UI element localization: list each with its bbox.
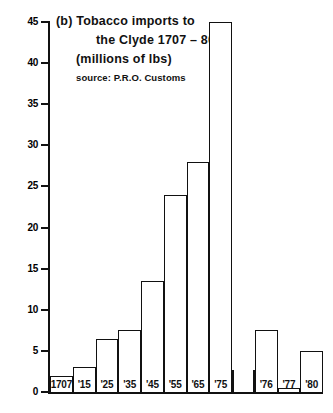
x-axis-line: [48, 392, 323, 394]
y-tick-mark: [41, 227, 50, 229]
y-tick-label: 20: [27, 223, 38, 233]
y-tick-label: 15: [27, 264, 38, 274]
y-tick-label: 40: [27, 58, 38, 68]
x-tick-label: 1707: [50, 379, 73, 390]
y-tick-mark: [41, 309, 50, 311]
y-tick-label: 25: [27, 181, 38, 191]
y-tick-mark: [41, 62, 50, 64]
y-tick-mark: [41, 185, 50, 187]
x-tick-label: '77: [278, 379, 301, 390]
x-tick-label: '55: [164, 379, 187, 390]
y-tick-mark: [41, 391, 50, 393]
y-tick-mark: [41, 144, 50, 146]
chart-figure: (b) Tobacco imports to the Clyde 1707 – …: [0, 0, 333, 413]
y-tick-label: 45: [27, 17, 38, 27]
plot-area: 1707'15'25'35'45'55'65'75'76'77'80: [50, 22, 323, 392]
y-tick-label: 30: [27, 140, 38, 150]
bar-65: [187, 162, 210, 392]
y-tick-label: 35: [27, 99, 38, 109]
bar-75: [209, 22, 232, 392]
cell-divider: [232, 370, 234, 392]
x-tick-label: '80: [300, 379, 323, 390]
y-tick-mark: [41, 350, 50, 352]
y-tick-mark: [41, 268, 50, 270]
y-tick-mark: [41, 21, 50, 23]
x-tick-label: '25: [96, 379, 119, 390]
y-tick-label: 0: [33, 387, 38, 397]
x-tick-label: '75: [209, 379, 232, 390]
x-tick-label: '76: [255, 379, 278, 390]
bar-55: [164, 195, 187, 392]
x-tick-label: '65: [187, 379, 210, 390]
x-tick-label: '15: [73, 379, 96, 390]
y-tick-mark: [41, 103, 50, 105]
x-tick-label: '45: [141, 379, 164, 390]
y-tick-label: 10: [27, 305, 38, 315]
bar-45: [141, 281, 164, 392]
x-tick-label: '35: [118, 379, 141, 390]
y-tick-label: 5: [33, 346, 38, 356]
